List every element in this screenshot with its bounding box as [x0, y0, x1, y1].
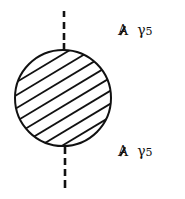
vertex-label-bottom: Aγ5: [118, 143, 153, 159]
gamma-index: 5: [146, 25, 153, 38]
feynman-diagram: [0, 0, 185, 199]
slashed-a: A: [118, 22, 128, 38]
hatching: [0, 20, 120, 199]
slashed-a: A: [118, 143, 128, 159]
gamma-symbol: γ: [137, 143, 145, 159]
vertex-label-top: Aγ5: [118, 22, 153, 38]
gamma-index: 5: [146, 146, 153, 159]
gamma-symbol: γ: [137, 22, 145, 38]
